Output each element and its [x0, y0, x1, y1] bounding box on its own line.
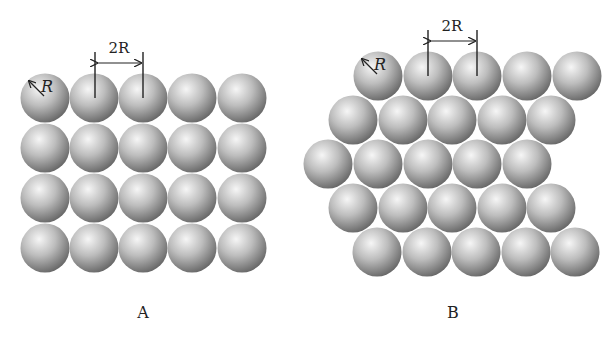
sphere: [527, 184, 576, 233]
sphere: [218, 174, 267, 223]
sphere: [428, 184, 477, 233]
sphere: [119, 224, 168, 273]
sphere: [168, 174, 217, 223]
sphere: [21, 174, 70, 223]
sphere: [553, 52, 602, 101]
sphere: [503, 52, 552, 101]
sphere: [329, 96, 378, 145]
sphere: [168, 74, 217, 123]
sphere: [379, 184, 428, 233]
sphere: [119, 174, 168, 223]
sphere: [428, 96, 477, 145]
sphere: [551, 228, 600, 277]
packing-diagram: 2R R 2R R A B: [0, 0, 615, 337]
sphere: [21, 124, 70, 173]
sphere: [403, 228, 452, 277]
sphere: [168, 224, 217, 273]
radius-label-b: R: [373, 55, 386, 74]
sphere: [70, 124, 119, 173]
sphere: [70, 174, 119, 223]
sphere: [70, 224, 119, 273]
sphere: [21, 224, 70, 273]
sphere: [70, 74, 119, 123]
sphere: [218, 124, 267, 173]
sphere: [354, 140, 403, 189]
sphere: [404, 140, 453, 189]
spacing-label-b: 2R: [442, 17, 464, 35]
sphere: [478, 184, 527, 233]
caption-a: A: [136, 303, 149, 322]
sphere: [218, 224, 267, 273]
panel-a-square-packing: [21, 74, 267, 273]
radius-label-a: R: [40, 77, 53, 96]
sphere: [304, 140, 353, 189]
sphere: [329, 184, 378, 233]
sphere: [218, 74, 267, 123]
caption-b: B: [447, 303, 459, 322]
sphere: [453, 140, 502, 189]
sphere: [502, 228, 551, 277]
sphere: [452, 228, 501, 277]
sphere: [527, 96, 576, 145]
panel-b-hexagonal-packing: [304, 52, 602, 277]
sphere: [119, 124, 168, 173]
sphere: [478, 96, 527, 145]
spacing-label-a: 2R: [109, 39, 131, 57]
sphere: [353, 228, 402, 277]
sphere: [379, 96, 428, 145]
sphere: [168, 124, 217, 173]
sphere: [503, 140, 552, 189]
